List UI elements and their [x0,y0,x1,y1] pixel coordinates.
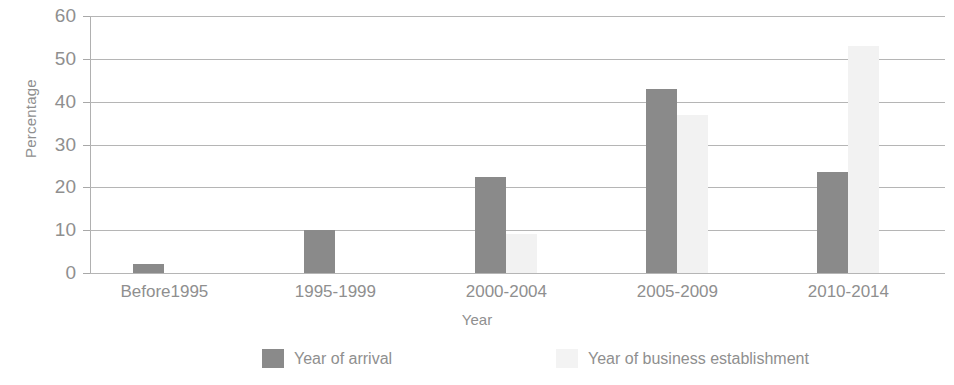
x-axis-tick-label: 2010-2014 [778,282,918,302]
legend-label: Year of arrival [294,350,392,368]
y-axis-tick-label: 40 [0,91,76,113]
legend-item-year-of-arrival: Year of arrival [262,349,392,368]
bar-chart: Percentage 0102030405060 Before19951995-… [0,0,954,385]
plot-area [90,16,945,273]
bar-business-3 [677,115,708,273]
legend-item-year-of-business-establishment: Year of business establishment [556,349,809,368]
x-axis-tick-label: 2000-2004 [436,282,576,302]
y-axis-tick-label: 50 [0,48,76,70]
legend-label: Year of business establishment [588,350,809,368]
bar-arrival-0 [133,264,164,273]
legend-swatch-icon [556,349,578,368]
x-axis-tick-label: 1995-1999 [265,282,405,302]
y-axis-tick-label: 60 [0,5,76,27]
gridline [90,145,945,146]
x-axis-tick-label: Before1995 [94,282,234,302]
gridline [90,273,945,274]
bar-arrival-4 [817,172,848,273]
gridline [90,102,945,103]
x-axis-tick-label: 2005-2009 [607,282,747,302]
y-axis-tick-label: 20 [0,176,76,198]
x-axis-title: Year [0,311,954,328]
bar-arrival-3 [646,89,677,273]
y-axis-tick-label: 30 [0,134,76,156]
legend-swatch-icon [262,349,284,368]
y-axis-tick-label: 10 [0,219,76,241]
gridline [90,16,945,17]
bar-arrival-2 [475,177,506,273]
bar-business-4 [848,46,879,273]
y-axis-tick-label: 0 [0,262,76,284]
bar-arrival-1 [304,230,335,273]
gridline [90,59,945,60]
bar-business-2 [506,234,537,273]
chart-legend: Year of arrival Year of business establi… [0,349,954,379]
